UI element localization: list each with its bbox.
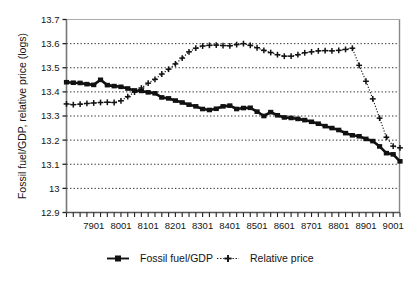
chart-figure: 13.713.613.513.413.313.213.11312.9 79018… — [0, 0, 417, 283]
x-tick-label: 8301 — [192, 220, 213, 231]
y-tick-label: 13.4 — [41, 86, 60, 97]
data-point-marker — [152, 91, 157, 96]
x-tick-label: 8501 — [247, 220, 268, 231]
data-point-marker — [248, 105, 253, 110]
data-point-marker — [186, 102, 191, 107]
x-tick-label: 8101 — [138, 220, 159, 231]
legend-label: Relative price — [250, 252, 314, 264]
data-point-marker — [227, 103, 232, 108]
data-point-marker — [200, 107, 205, 112]
data-point-marker — [173, 98, 178, 103]
data-point-marker — [391, 152, 396, 157]
x-tick-label: 8601 — [274, 220, 295, 231]
data-point-marker — [214, 106, 219, 111]
data-point-marker — [295, 117, 300, 122]
data-point-marker — [329, 126, 334, 131]
legend-label: Fossil fuel/GDP — [140, 252, 213, 264]
y-tick-label: 13.5 — [41, 62, 60, 73]
data-point-marker — [146, 90, 151, 95]
data-point-marker — [268, 110, 273, 115]
data-point-marker — [220, 104, 225, 109]
data-point-marker — [64, 80, 69, 85]
x-tick-label: 7901 — [83, 220, 104, 231]
data-point-marker — [71, 80, 76, 85]
data-point-marker — [112, 84, 117, 89]
data-point-marker — [241, 106, 246, 111]
data-point-marker — [234, 107, 239, 112]
x-tick-label: 8401 — [219, 220, 240, 231]
data-point-marker — [363, 137, 368, 142]
data-point-marker — [343, 131, 348, 136]
legend-square-marker — [115, 256, 121, 262]
y-tick-label: 13.7 — [41, 14, 60, 25]
x-tick-label: 8001 — [110, 220, 131, 231]
data-point-marker — [350, 133, 355, 138]
y-tick-label: 13.6 — [41, 38, 60, 49]
data-point-marker — [384, 151, 389, 156]
x-tick-label: 8701 — [301, 220, 322, 231]
y-axis-title: Fossil fuel/GDP, relative price (logs) — [16, 33, 28, 199]
data-point-marker — [302, 118, 307, 123]
data-point-marker — [98, 78, 103, 83]
x-tick-label: 8801 — [328, 220, 349, 231]
data-point-marker — [323, 124, 328, 129]
data-point-marker — [193, 104, 198, 109]
data-point-marker — [397, 159, 402, 164]
x-tick-label: 8201 — [165, 220, 186, 231]
data-point-marker — [261, 114, 266, 119]
data-point-marker — [370, 139, 375, 144]
data-point-marker — [78, 81, 83, 86]
data-point-marker — [207, 108, 212, 113]
fossil-fuel-relative-price-chart: 13.713.613.513.413.313.213.11312.9 79018… — [0, 0, 417, 283]
data-point-marker — [316, 121, 321, 126]
data-point-marker — [377, 144, 382, 149]
y-tick-label: 13.1 — [41, 159, 60, 170]
x-tick-label: 9001 — [383, 220, 404, 231]
data-point-marker — [282, 115, 287, 120]
y-tick-label: 13.2 — [41, 135, 60, 146]
x-tick-label: 8901 — [355, 220, 376, 231]
y-tick-label: 12.9 — [41, 207, 60, 218]
data-point-marker — [336, 128, 341, 133]
data-point-marker — [254, 109, 259, 114]
data-point-marker — [309, 119, 314, 124]
data-point-marker — [105, 83, 110, 88]
data-point-marker — [166, 96, 171, 101]
data-point-marker — [118, 85, 123, 90]
data-point-marker — [91, 83, 96, 88]
data-point-marker — [125, 86, 130, 91]
data-point-marker — [275, 113, 280, 118]
data-point-marker — [289, 116, 294, 121]
data-point-marker — [84, 82, 89, 87]
y-tick-label: 13 — [49, 183, 60, 194]
data-point-marker — [159, 95, 164, 100]
data-point-marker — [357, 134, 362, 139]
chart-background — [0, 0, 417, 283]
data-point-marker — [180, 100, 185, 105]
y-tick-label: 13.3 — [41, 110, 60, 121]
